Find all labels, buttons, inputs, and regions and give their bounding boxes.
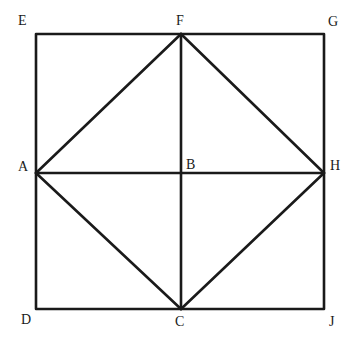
label-H: H bbox=[330, 158, 340, 173]
label-F: F bbox=[176, 13, 184, 28]
label-G: G bbox=[328, 14, 338, 29]
label-D: D bbox=[21, 312, 31, 327]
segment-CA bbox=[36, 173, 181, 309]
segment-HC bbox=[181, 173, 324, 309]
label-B: B bbox=[186, 157, 195, 172]
label-C: C bbox=[175, 314, 184, 329]
segment-AF bbox=[36, 34, 181, 173]
label-J: J bbox=[329, 314, 335, 329]
label-A: A bbox=[18, 159, 29, 174]
geometry-diagram: E F G A B H D C J bbox=[0, 0, 357, 341]
segment-FH bbox=[181, 34, 324, 173]
label-E: E bbox=[18, 13, 27, 28]
